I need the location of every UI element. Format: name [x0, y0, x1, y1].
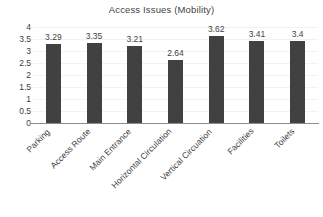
y-axis-tick-labels: 00.511.522.533.54: [0, 27, 31, 123]
y-tick-label: 3.5: [1, 35, 31, 44]
y-tick-label: 2: [1, 71, 31, 80]
gridline: [33, 27, 318, 28]
x-axis-line: [31, 123, 319, 124]
y-tick-label: 1: [1, 95, 31, 104]
x-category-label: Facilities: [226, 127, 256, 157]
gridline: [33, 39, 318, 40]
bar-value-label: 2.64: [159, 49, 193, 58]
bar[interactable]: [290, 41, 305, 123]
x-category-label: Access Route: [49, 127, 93, 171]
y-tick-label: 0: [1, 119, 31, 128]
x-category-label: Toilets: [273, 127, 297, 151]
bar-value-label: 3.62: [199, 25, 233, 34]
bar-value-label: 3.4: [281, 30, 315, 39]
chart-title: Access Issues (Mobility): [0, 4, 323, 15]
bar-value-label: 3.41: [240, 30, 274, 39]
bar[interactable]: [87, 43, 102, 123]
bar[interactable]: [168, 60, 183, 123]
bar-value-label: 3.35: [77, 32, 111, 41]
bar-value-label: 3.29: [36, 33, 70, 42]
plot-area: [33, 27, 318, 123]
x-category-label: Parking: [25, 127, 52, 154]
y-tick-label: 4: [1, 23, 31, 32]
bar[interactable]: [249, 41, 264, 123]
bar[interactable]: [127, 46, 142, 123]
y-tick-label: 2.5: [1, 59, 31, 68]
bar[interactable]: [209, 36, 224, 123]
bar-chart: Access Issues (Mobility) 00.511.522.533.…: [0, 0, 323, 217]
y-tick-label: 0.5: [1, 107, 31, 116]
y-tick-label: 3: [1, 47, 31, 56]
y-tick-label: 1.5: [1, 83, 31, 92]
bar-value-label: 3.21: [118, 35, 152, 44]
bar[interactable]: [46, 44, 61, 123]
